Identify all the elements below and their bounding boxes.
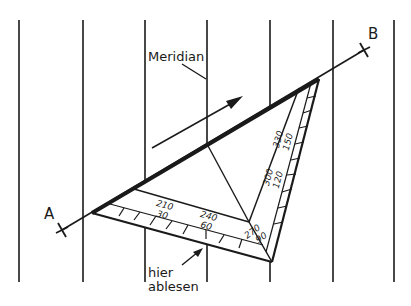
meridian-label: Meridian (148, 49, 204, 64)
protractor-triangle-diagram: Meridian A B hier ablesen 210 30 240 60 … (0, 0, 411, 306)
read-here-label-line2: ablesen (148, 279, 199, 294)
point-a-cross-icon (56, 223, 68, 237)
read-here-label-line1: hier (148, 265, 174, 280)
point-a-label: A (44, 205, 55, 223)
point-b-label: B (368, 25, 378, 43)
point-b-cross-icon (358, 43, 370, 57)
meridian-pointer-line (182, 64, 206, 79)
read-here-arrow-icon (182, 248, 203, 265)
